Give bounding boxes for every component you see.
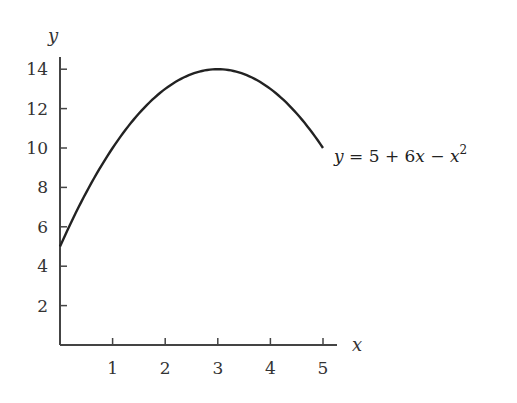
function-plot: 12345 2468101214 y x y = 5 + 6x − x2: [0, 0, 517, 403]
y-tick-label: 12: [26, 99, 48, 119]
x-tick-label: 3: [212, 358, 223, 378]
y-tick-label: 14: [26, 59, 48, 79]
y-axis-label: y: [47, 25, 59, 46]
equation-exponent: 2: [460, 143, 468, 157]
equation-constant: = 5 + 6: [344, 146, 416, 166]
axes: [60, 57, 337, 345]
x-tick-label: 5: [318, 358, 329, 378]
equation-y: y: [333, 146, 344, 166]
equation-label: y = 5 + 6x − x2: [333, 143, 467, 166]
y-tick-label: 2: [37, 296, 48, 316]
x-axis-label: x: [352, 334, 362, 355]
x-tick-label: 2: [160, 358, 171, 378]
x-tick-label: 4: [265, 358, 276, 378]
equation-x-term: x: [415, 146, 425, 166]
equation-minus: −: [425, 146, 450, 166]
y-tick-label: 8: [37, 177, 48, 197]
y-tick-label: 6: [37, 217, 48, 237]
x-tick-label: 1: [107, 358, 118, 378]
curve-line: [60, 69, 323, 246]
y-tick-label: 10: [26, 138, 48, 158]
equation-x-squared: x: [450, 146, 460, 166]
y-tick-label: 4: [37, 256, 48, 276]
